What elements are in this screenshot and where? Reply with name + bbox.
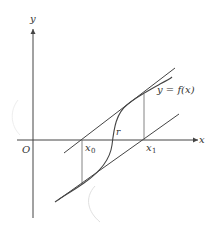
x1-subscript: 1 xyxy=(152,147,156,155)
faint-arc-left xyxy=(12,100,20,135)
origin-label: O xyxy=(22,144,30,155)
diagram-canvas: y x O x 0 x 1 r y = f(x) xyxy=(0,0,214,229)
faint-arc xyxy=(89,186,100,222)
y-axis-label: y xyxy=(29,13,36,24)
x0-subscript: 0 xyxy=(91,147,95,155)
curve-label: y = f(x) xyxy=(156,84,195,95)
x-axis-label: x xyxy=(199,134,205,145)
root-label: r xyxy=(116,127,121,137)
